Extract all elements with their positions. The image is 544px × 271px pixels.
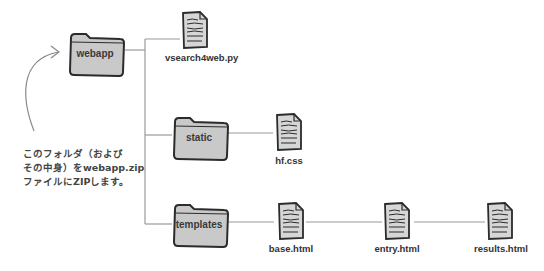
file-label: hf.css xyxy=(262,155,316,166)
file-entry-html xyxy=(382,201,410,239)
document-icon xyxy=(274,112,304,152)
document-icon xyxy=(180,10,210,50)
annotation-note: このフォルダ（および その中身）をwebapp.zip ファイルにZIPします。 xyxy=(23,147,133,189)
document-icon xyxy=(485,201,515,241)
file-results-html xyxy=(485,201,513,239)
folder-label: templates xyxy=(172,219,226,230)
folder-label: static xyxy=(172,132,226,143)
directory-tree-diagram: webapp vsearch4web.py static xyxy=(0,0,544,271)
annotation-line: その中身）をwebapp.zip xyxy=(23,161,133,175)
file-label: entry.html xyxy=(365,243,429,254)
folder-templates: templates xyxy=(172,201,226,245)
folder-label: webapp xyxy=(68,48,122,59)
document-icon xyxy=(276,201,306,241)
file-label: base.html xyxy=(260,243,322,254)
folder-static: static xyxy=(172,114,226,158)
annotation-arrow-icon xyxy=(26,46,59,131)
annotation-line: ファイルにZIPします。 xyxy=(23,175,133,189)
file-label: results.html xyxy=(466,243,536,254)
file-base-html xyxy=(276,201,304,239)
file-vsearch4web xyxy=(180,10,208,48)
folder-webapp: webapp xyxy=(68,30,122,74)
document-icon xyxy=(382,201,412,241)
file-label: vsearch4web.py xyxy=(165,52,225,63)
file-hf-css xyxy=(274,112,302,150)
annotation-line: このフォルダ（および xyxy=(23,147,133,161)
